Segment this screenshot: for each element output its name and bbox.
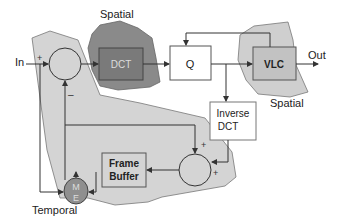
subtractor-minus-sign: – — [68, 89, 74, 100]
frame-buffer-label-1: Frame — [109, 158, 139, 169]
inverse-dct-label-1: Inverse — [217, 108, 250, 119]
input-label: In — [15, 56, 24, 68]
subtractor-plus-sign: + — [37, 53, 42, 63]
dct-label: DCT — [111, 59, 132, 70]
temporal-label: Temporal — [32, 204, 77, 216]
inverse-dct-label-2: DCT — [218, 121, 239, 132]
adder-node — [179, 154, 211, 186]
adder-plus-right-sign: + — [213, 168, 218, 178]
vlc-label: VLC — [264, 59, 284, 70]
spatial-top-label: Spatial — [100, 8, 134, 20]
adder-plus-top-sign: + — [201, 140, 206, 150]
me-label-m: M — [72, 182, 80, 192]
subtractor-node — [49, 48, 81, 80]
me-label-e: E — [73, 193, 79, 203]
encoder-diagram: DCT Q VLC Inverse DCT Frame Buffer M E — [0, 0, 339, 224]
frame-buffer-label-2: Buffer — [109, 171, 139, 182]
output-label: Out — [308, 49, 326, 61]
quantizer-label: Q — [186, 58, 195, 70]
spatial-right-label: Spatial — [270, 97, 304, 109]
